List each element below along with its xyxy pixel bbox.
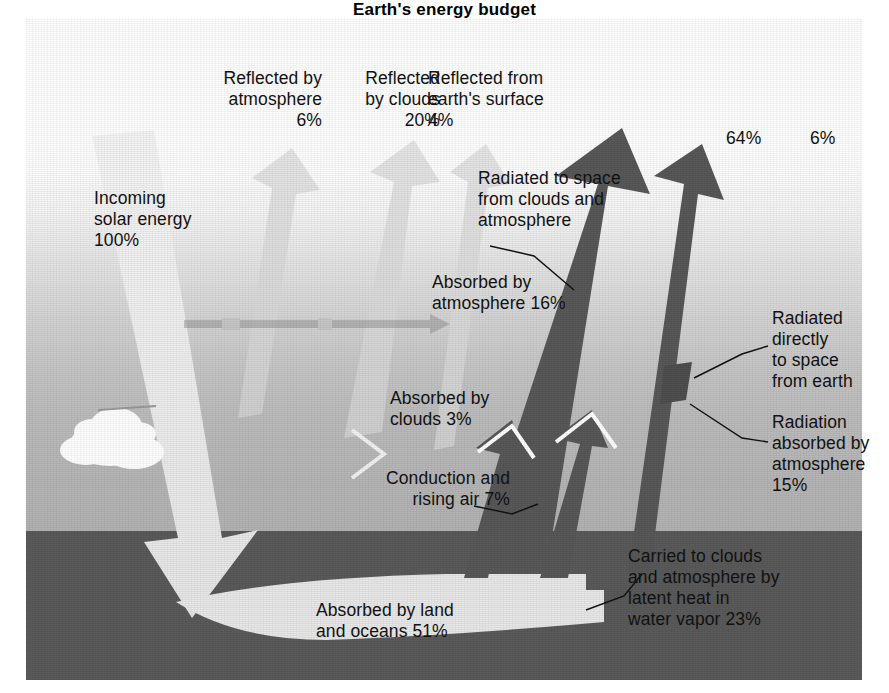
label-absorbed-by-atmosphere: Absorbed by atmosphere 16%	[432, 272, 566, 314]
figure-title: Earth's energy budget	[0, 0, 889, 20]
energy-budget-figure: Earth's energy budget	[0, 0, 889, 693]
label-radiated-to-space: Radiated to space from clouds and atmosp…	[478, 168, 621, 231]
label-conduction-rising-air: Conduction and rising air 7%	[330, 468, 510, 510]
label-output-64: 64%	[726, 128, 761, 149]
label-reflected-from-surface: Reflected from earth's surface 4%	[428, 68, 608, 131]
label-latent-heat: Carried to clouds and atmosphere by late…	[628, 546, 780, 630]
label-incoming-solar: Incoming solar energy 100%	[94, 188, 192, 251]
label-reflected-by-clouds: Reflected by clouds 20%	[330, 68, 440, 131]
label-radiation-absorbed: Radiation absorbed by atmosphere 15%	[772, 412, 869, 496]
label-absorbed-by-clouds: Absorbed by clouds 3%	[390, 388, 489, 430]
label-reflected-by-atmosphere: Reflected by atmosphere 6%	[172, 68, 322, 131]
label-absorbed-land-oceans: Absorbed by land and oceans 51%	[316, 600, 454, 642]
label-radiated-directly: Radiated directly to space from earth	[772, 308, 853, 392]
label-output-6: 6%	[810, 128, 836, 149]
